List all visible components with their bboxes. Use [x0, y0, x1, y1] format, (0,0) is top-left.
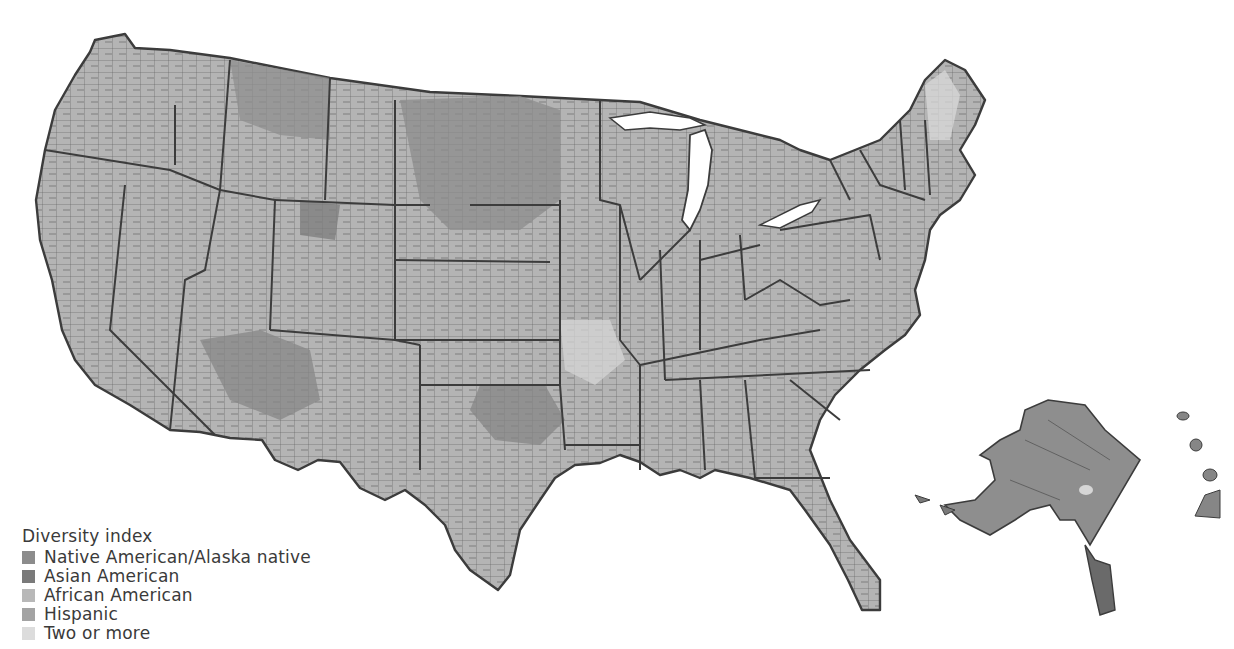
legend-item-african-american: African American [22, 586, 311, 605]
wyoming-asian-region [300, 200, 340, 240]
contiguous-us [36, 34, 985, 610]
legend: Diversity index Native American/Alaska n… [22, 526, 311, 643]
legend-title: Diversity index [22, 526, 311, 546]
legend-swatch-african-american [22, 589, 35, 602]
legend-swatch-two-or-more [22, 627, 35, 640]
legend-item-two-or-more: Two or more [22, 624, 311, 643]
legend-label: Native American/Alaska native [44, 548, 311, 567]
legend-item-hispanic: Hispanic [22, 605, 311, 624]
legend-label: Asian American [44, 567, 180, 586]
legend-label: African American [44, 586, 193, 605]
legend-swatch-hispanic [22, 608, 35, 621]
alaska-panhandle [1085, 545, 1115, 615]
legend-item-native-american: Native American/Alaska native [22, 548, 311, 567]
legend-swatch-native-american [22, 551, 35, 564]
legend-item-asian-american: Asian American [22, 567, 311, 586]
alaska-landmass [945, 400, 1140, 545]
hawaii-maui [1203, 469, 1217, 481]
alaska [915, 400, 1140, 615]
hawaii-big-island [1195, 490, 1220, 518]
legend-label: Hispanic [44, 605, 118, 624]
legend-label: Two or more [44, 624, 150, 643]
hawaii-oahu [1190, 439, 1202, 451]
alaska-two-or-more-area [1079, 485, 1093, 495]
legend-swatch-asian-american [22, 570, 35, 583]
hawaii-kauai [1177, 412, 1189, 420]
hawaii [1177, 412, 1220, 518]
